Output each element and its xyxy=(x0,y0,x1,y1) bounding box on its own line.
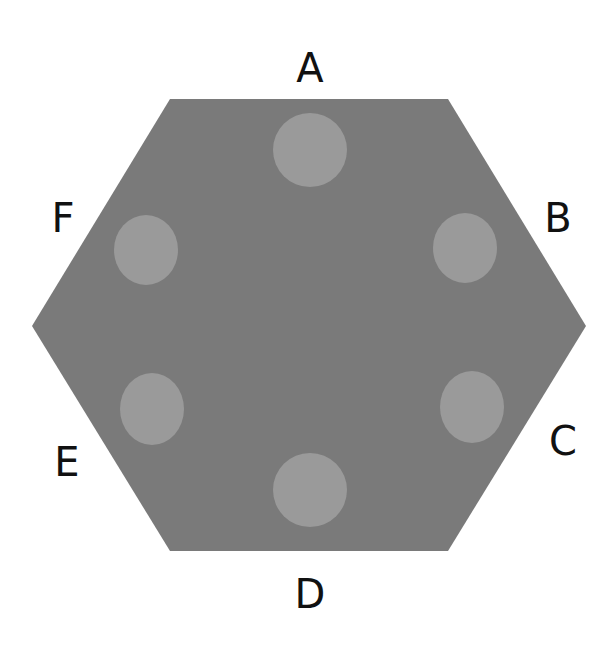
spot-a xyxy=(273,113,347,187)
spot-c xyxy=(440,371,504,443)
label-f: F xyxy=(51,195,74,241)
label-b: B xyxy=(544,195,571,241)
spot-b xyxy=(433,213,497,283)
label-c: C xyxy=(549,418,577,464)
spot-d xyxy=(273,453,347,527)
label-a: A xyxy=(296,45,324,91)
hexagon-diagram: ABCDEF xyxy=(0,0,613,648)
spot-e xyxy=(120,373,184,445)
label-e: E xyxy=(54,439,79,485)
label-d: D xyxy=(295,571,326,617)
spot-f xyxy=(114,215,178,285)
